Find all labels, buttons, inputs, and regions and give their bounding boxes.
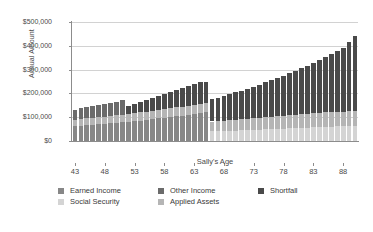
bar-segment bbox=[263, 82, 268, 117]
bar-segment bbox=[335, 51, 340, 111]
chart-legend: Earned Income Other Income Shortfall Soc… bbox=[58, 185, 348, 207]
bar-segment bbox=[329, 127, 334, 141]
bar-segment bbox=[341, 48, 346, 111]
bar-segment bbox=[156, 96, 161, 110]
bar-segment bbox=[132, 121, 137, 141]
bar-segment bbox=[114, 102, 119, 116]
bar-segment bbox=[251, 87, 256, 118]
bar-segment bbox=[245, 119, 250, 130]
bar-segment bbox=[198, 82, 203, 104]
y-tick-mark bbox=[69, 93, 72, 94]
bar-segment bbox=[287, 128, 292, 141]
bar-segment bbox=[311, 113, 316, 127]
bar-segment bbox=[90, 106, 95, 117]
bar-segment bbox=[323, 57, 328, 112]
x-tick-label: 58 bbox=[154, 167, 174, 176]
bar-segment bbox=[90, 118, 95, 125]
x-tick-label: 68 bbox=[214, 167, 234, 176]
bar-segment bbox=[269, 80, 274, 116]
bar-segment bbox=[120, 100, 125, 115]
bar-column bbox=[245, 22, 250, 141]
bar-column bbox=[198, 22, 203, 141]
bar-segment bbox=[162, 109, 167, 118]
bar-segment bbox=[329, 54, 334, 112]
bar-segment bbox=[162, 94, 167, 109]
bar-segment bbox=[126, 114, 131, 122]
bar-segment bbox=[180, 88, 185, 107]
bar-column bbox=[251, 22, 256, 141]
bar-column bbox=[174, 22, 179, 141]
bar-segment bbox=[299, 68, 304, 114]
legend-item-applied-assets: Applied Assets bbox=[158, 197, 258, 206]
bar-segment bbox=[210, 122, 215, 132]
bar-segment bbox=[132, 113, 137, 121]
bar-segment bbox=[257, 85, 262, 118]
bar-segment bbox=[335, 112, 340, 127]
legend-swatch-icon bbox=[58, 188, 64, 194]
x-tick-label: 88 bbox=[333, 167, 353, 176]
bar-column bbox=[120, 22, 125, 141]
bar-segment bbox=[281, 116, 286, 129]
bar-column bbox=[305, 22, 310, 141]
legend-label: Social Security bbox=[70, 197, 120, 206]
x-tick-label: 78 bbox=[274, 167, 294, 176]
bar-segment bbox=[73, 110, 78, 120]
bar-segment bbox=[79, 119, 84, 126]
bar-column bbox=[269, 22, 274, 141]
bar-column bbox=[204, 22, 209, 141]
legend-item-other-income: Other Income bbox=[158, 186, 258, 195]
bar-column bbox=[192, 22, 197, 141]
bar-segment bbox=[245, 89, 250, 119]
bar-column bbox=[239, 22, 244, 141]
bar-segment bbox=[138, 121, 143, 141]
bar-segment bbox=[73, 120, 78, 127]
bar-segment bbox=[251, 130, 256, 141]
bar-segment bbox=[198, 104, 203, 113]
bar-segment bbox=[347, 126, 352, 141]
bar-column bbox=[90, 22, 95, 141]
y-tick-mark bbox=[69, 117, 72, 118]
bar-segment bbox=[168, 117, 173, 141]
bar-segment bbox=[335, 126, 340, 141]
bar-segment bbox=[269, 129, 274, 141]
x-axis-line bbox=[71, 141, 359, 142]
y-tick-label: $100,000 bbox=[0, 113, 52, 120]
bar-segment bbox=[305, 128, 310, 141]
bar-segment bbox=[353, 126, 358, 141]
annual-amount-stacked-column-chart: Annual Amount $0$100,000$200,000$300,000… bbox=[0, 0, 373, 232]
bar-segment bbox=[186, 115, 191, 141]
bar-segment bbox=[120, 122, 125, 141]
bar-column bbox=[317, 22, 322, 141]
bar-column bbox=[281, 22, 286, 141]
bar-segment bbox=[227, 94, 232, 120]
legend-label: Other Income bbox=[170, 186, 215, 195]
y-tick-mark bbox=[69, 46, 72, 47]
bar-column bbox=[144, 22, 149, 141]
y-tick-mark bbox=[69, 141, 72, 142]
bar-segment bbox=[108, 116, 113, 123]
y-tick-label: $400,000 bbox=[0, 42, 52, 49]
bar-segment bbox=[114, 115, 119, 123]
bar-column bbox=[216, 22, 221, 141]
bar-segment bbox=[198, 113, 203, 141]
bar-segment bbox=[293, 128, 298, 141]
bar-segment bbox=[275, 78, 280, 116]
bar-column bbox=[84, 22, 89, 141]
bar-segment bbox=[192, 84, 197, 105]
bar-column bbox=[233, 22, 238, 141]
bar-segment bbox=[96, 105, 101, 117]
bar-column bbox=[275, 22, 280, 141]
bar-segment bbox=[233, 120, 238, 131]
bar-segment bbox=[108, 123, 113, 141]
bar-segment bbox=[79, 126, 84, 141]
bar-segment bbox=[150, 119, 155, 141]
bar-column bbox=[323, 22, 328, 141]
bar-segment bbox=[233, 131, 238, 141]
bar-segment bbox=[144, 100, 149, 112]
x-tick-label: 48 bbox=[95, 167, 115, 176]
bar-column bbox=[79, 22, 84, 141]
bar-segment bbox=[347, 42, 352, 111]
y-tick-label: $200,000 bbox=[0, 89, 52, 96]
bar-segment bbox=[150, 98, 155, 111]
bar-segment bbox=[227, 131, 232, 141]
